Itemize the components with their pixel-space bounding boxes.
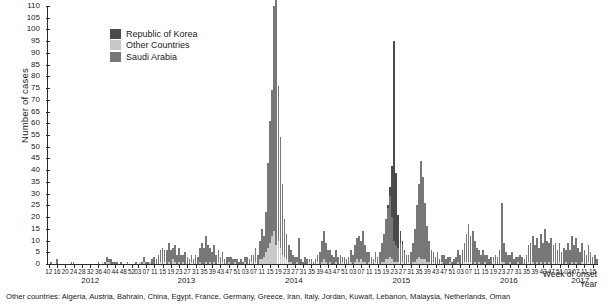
x-tick-label: 43 — [324, 268, 331, 275]
x-tick-label: 03 — [242, 268, 249, 275]
x-tick — [419, 264, 420, 268]
x-tick — [212, 264, 213, 268]
x-tick — [154, 264, 155, 268]
x-tick — [460, 264, 461, 268]
x-tick — [510, 264, 511, 268]
x-tick-label: 03 — [134, 268, 141, 275]
x-tick-label: 32 — [87, 268, 94, 275]
x-tick — [353, 264, 354, 268]
x-tick-label: 19 — [490, 268, 497, 275]
x-tick — [163, 264, 164, 268]
x-tick-label: 39 — [316, 268, 323, 275]
x-axis-line — [46, 264, 598, 265]
x-tick-label: 44 — [111, 268, 118, 275]
x-tick — [311, 264, 312, 268]
x-tick-label: 47 — [333, 268, 340, 275]
epidemic-curve-figure: Number of cases 051015202530354045505560… — [0, 0, 605, 306]
y-tick-label: 30 — [14, 190, 40, 198]
x-tick — [179, 264, 180, 268]
x-tick — [196, 264, 197, 268]
x-tick-label: 47 — [225, 268, 232, 275]
y-tick-label: 110 — [14, 2, 40, 10]
x-tick-label: 39 — [531, 268, 538, 275]
bar-segment-korea — [402, 241, 404, 246]
legend-item-other: Other Countries — [110, 40, 198, 52]
x-year-label: 2015 — [392, 276, 410, 285]
x-tick-label: 23 — [176, 268, 183, 275]
x-axis-title-line2: Year — [543, 280, 597, 290]
x-tick — [303, 264, 304, 268]
y-tick-label: 65 — [14, 108, 40, 116]
x-tick — [535, 264, 536, 268]
x-tick-label: 07 — [250, 268, 257, 275]
x-tick — [328, 264, 329, 268]
x-tick — [65, 264, 66, 268]
x-year-label: 2013 — [177, 276, 195, 285]
legend-swatch-korea — [110, 29, 121, 39]
y-tick-label: 50 — [14, 143, 40, 151]
x-tick — [320, 264, 321, 268]
x-tick — [560, 264, 561, 268]
x-tick-label: 27 — [399, 268, 406, 275]
x-tick — [411, 264, 412, 268]
y-tick-label: 15 — [14, 225, 40, 233]
x-tick-label: 24 — [70, 268, 77, 275]
y-tick-label: 5 — [14, 248, 40, 256]
x-tick-label: 07 — [142, 268, 149, 275]
x-tick-label: 43 — [432, 268, 439, 275]
x-tick-label: 36 — [95, 268, 102, 275]
x-tick — [543, 264, 544, 268]
x-tick-label: 27 — [184, 268, 191, 275]
x-tick — [123, 264, 124, 268]
x-tick-label: 27 — [506, 268, 513, 275]
y-tick-label: 25 — [14, 201, 40, 209]
x-tick — [394, 264, 395, 268]
x-tick — [138, 264, 139, 268]
x-tick-label: 19 — [275, 268, 282, 275]
x-tick-label: 43 — [217, 268, 224, 275]
y-tick-label: 95 — [14, 37, 40, 45]
x-tick-label: 31 — [407, 268, 414, 275]
x-tick-label: 35 — [308, 268, 315, 275]
y-tick-label: 60 — [14, 119, 40, 127]
x-tick-label: 35 — [415, 268, 422, 275]
x-tick-label: 51 — [233, 268, 240, 275]
x-tick — [262, 264, 263, 268]
bar-segment-korea — [404, 250, 406, 252]
other-countries-note: Other countries: Algeria, Austria, Bahra… — [6, 292, 510, 301]
x-tick — [427, 264, 428, 268]
y-tick-label: 35 — [14, 178, 40, 186]
x-tick-label: 12 — [45, 268, 52, 275]
x-tick-label: 39 — [209, 268, 216, 275]
x-tick — [49, 264, 50, 268]
x-tick — [171, 264, 172, 268]
x-tick — [57, 264, 58, 268]
x-tick-label: 35 — [200, 268, 207, 275]
legend-swatch-saudi — [110, 52, 121, 62]
x-tick — [518, 264, 519, 268]
x-tick — [593, 264, 594, 268]
x-tick-label: 03 — [349, 268, 356, 275]
x-tick-label: 23 — [283, 268, 290, 275]
x-tick — [254, 264, 255, 268]
x-tick-label: 03 — [457, 268, 464, 275]
x-tick — [336, 264, 337, 268]
x-tick — [444, 264, 445, 268]
x-tick — [551, 264, 552, 268]
x-tick-label: 15 — [374, 268, 381, 275]
x-tick — [287, 264, 288, 268]
x-tick-label: 23 — [391, 268, 398, 275]
x-tick — [82, 264, 83, 268]
x-tick — [402, 264, 403, 268]
y-tick-label: 80 — [14, 72, 40, 80]
x-tick — [132, 264, 133, 268]
x-tick — [469, 264, 470, 268]
y-tick-label: 75 — [14, 84, 40, 92]
x-tick — [378, 264, 379, 268]
x-tick-label: 51 — [341, 268, 348, 275]
x-tick-label: 47 — [440, 268, 447, 275]
x-tick-label: 11 — [366, 268, 373, 275]
x-tick — [493, 264, 494, 268]
x-tick-label: 07 — [465, 268, 472, 275]
y-tick-label: 105 — [14, 14, 40, 22]
